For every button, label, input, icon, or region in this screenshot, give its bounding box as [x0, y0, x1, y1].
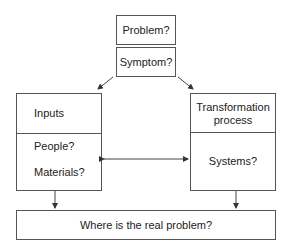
- arrow-symptom-to-inputs: [98, 77, 113, 89]
- arrow-symptom-to-transformation: [178, 77, 193, 89]
- connectors: [0, 0, 291, 250]
